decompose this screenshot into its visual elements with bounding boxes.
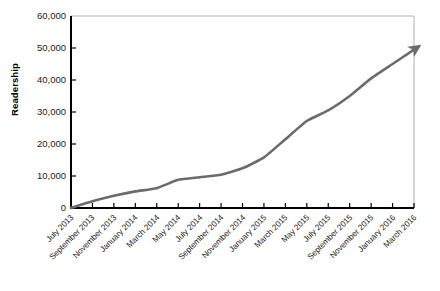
axis-ticks	[71, 48, 414, 208]
plot-frame	[71, 16, 414, 208]
readership-data-line	[71, 50, 414, 208]
readership-line-chart: Readership 010,00020,00030,00040,00050,0…	[0, 0, 440, 291]
